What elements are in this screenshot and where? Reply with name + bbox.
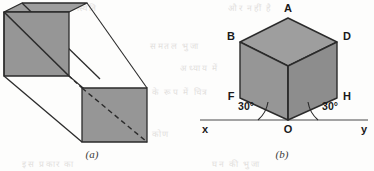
figure-b-group: A B D F H O x y 30° 30°	[200, 2, 368, 135]
figure-a-group	[4, 3, 147, 142]
figure-a-hidden-connector-edge	[69, 76, 82, 88]
screenshot-root: के लिए यह स्थिति और नहीं है समतल भुजा अध…	[0, 0, 374, 171]
figure-b-vertex-label-B: B	[227, 30, 235, 42]
figure-b-axis-label-x: x	[202, 123, 209, 135]
figures-canvas: A B D F H O x y 30° 30°	[0, 0, 374, 171]
figure-b-angle-label-right: 30°	[322, 100, 338, 112]
figure-b-vertex-label-O: O	[284, 123, 293, 135]
figure-a-edge-bottom-left	[4, 76, 82, 142]
figure-b-caption: (b)	[262, 148, 302, 160]
figure-b-vertex-label-F: F	[228, 90, 235, 102]
figure-a-top-cap-face	[4, 3, 87, 12]
figure-b-vertex-label-H: H	[343, 90, 351, 102]
figure-b-vertex-label-A: A	[284, 2, 292, 14]
figure-b-vertex-label-D: D	[343, 30, 351, 42]
figure-a-caption: (a)	[72, 148, 112, 160]
figure-b-axis-label-y: y	[361, 123, 368, 135]
figure-b-angle-label-left: 30°	[238, 100, 254, 112]
